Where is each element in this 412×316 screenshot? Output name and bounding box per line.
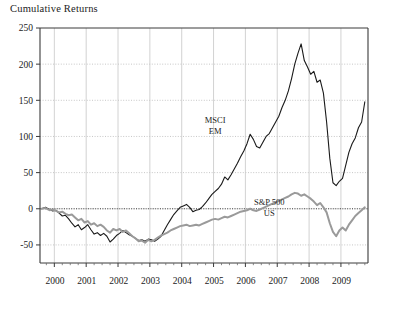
axis-tick-marks xyxy=(36,28,365,267)
x-tick-label: 2007 xyxy=(268,276,287,286)
msci-em-label: EM xyxy=(209,126,222,136)
x-tick-label: 2004 xyxy=(173,276,192,286)
y-tick-label: 50 xyxy=(24,168,34,178)
x-tick-label: 2000 xyxy=(45,276,64,286)
msci-em-label: MSCI xyxy=(205,115,226,125)
chart-container: Cumulative Returns 250200150100500-50 20… xyxy=(0,0,412,316)
series-line-s-p-500-us xyxy=(42,193,365,243)
y-axis-tick-labels: 250200150100500-50 xyxy=(19,23,34,250)
x-tick-label: 2008 xyxy=(300,276,319,286)
y-tick-label: -50 xyxy=(20,240,33,250)
x-tick-label: 2003 xyxy=(141,276,160,286)
sp500-label: US xyxy=(264,208,275,218)
sp500-label: S&P 500 xyxy=(254,197,285,207)
y-tick-label: 150 xyxy=(19,96,34,106)
x-axis-tick-labels: 2000200120022003200420052006200720082009 xyxy=(45,276,351,286)
x-tick-label: 2006 xyxy=(237,276,256,286)
y-tick-label: 0 xyxy=(28,204,33,214)
x-tick-label: 2002 xyxy=(109,276,128,286)
line-chart-plot: 250200150100500-50 200020012002200320042… xyxy=(0,0,412,316)
x-tick-label: 2001 xyxy=(77,276,96,286)
x-tick-label: 2009 xyxy=(332,276,351,286)
y-tick-label: 100 xyxy=(19,132,34,142)
x-tick-label: 2005 xyxy=(205,276,224,286)
series-line-msci-em xyxy=(42,44,365,242)
y-tick-label: 250 xyxy=(19,23,34,33)
y-tick-label: 200 xyxy=(19,60,34,70)
series-annotations: MSCIEMS&P 500US xyxy=(205,115,285,218)
data-series-lines xyxy=(42,44,365,243)
